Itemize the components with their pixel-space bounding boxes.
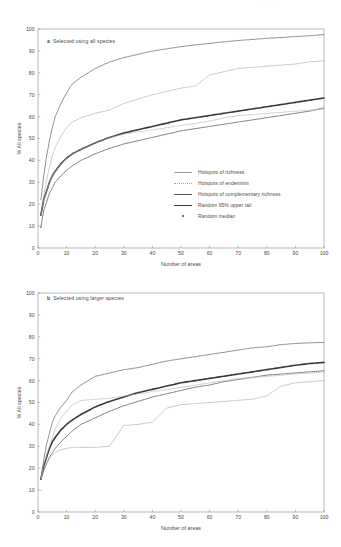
svg-text:0: 0 <box>37 514 40 520</box>
legend: Hotspots of richness Hotspots of endemis… <box>172 166 322 221</box>
svg-text:0: 0 <box>32 245 35 251</box>
legend-label: Random median <box>194 213 235 219</box>
svg-text:70: 70 <box>29 92 35 98</box>
line-sample-thick-dark-icon <box>172 201 194 209</box>
svg-text:60: 60 <box>207 250 213 256</box>
svg-text:80: 80 <box>264 250 270 256</box>
svg-text:Number of areas: Number of areas <box>161 525 201 531</box>
svg-text:10: 10 <box>64 250 70 256</box>
panel-b-letter: b <box>47 295 50 301</box>
svg-text:0: 0 <box>32 509 35 515</box>
legend-item-hotspots-endemism: Hotspots of endemism <box>172 177 322 188</box>
svg-text:40: 40 <box>29 157 35 163</box>
svg-text:30: 30 <box>121 250 127 256</box>
svg-text:90: 90 <box>29 48 35 54</box>
svg-text:Number of areas: Number of areas <box>161 261 201 267</box>
svg-text:60: 60 <box>207 514 213 520</box>
svg-text:90: 90 <box>29 312 35 318</box>
legend-label: Hotspots of complementary richness <box>194 191 281 197</box>
svg-text:50: 50 <box>178 250 184 256</box>
legend-label: Hotspots of richness <box>194 169 244 175</box>
legend-item-hotspots-richness: Hotspots of richness <box>172 166 322 177</box>
panel-a-caption: aSelected using all species <box>47 38 115 44</box>
svg-text:20: 20 <box>29 465 35 471</box>
legend-label: Random 95% upper tail <box>194 202 251 208</box>
svg-text:80: 80 <box>29 334 35 340</box>
svg-text:10: 10 <box>64 514 70 520</box>
svg-text:60: 60 <box>29 378 35 384</box>
svg-text:30: 30 <box>29 443 35 449</box>
chart-panel-a: 0102030405060708090100010203040506070809… <box>0 0 341 283</box>
svg-text:0: 0 <box>37 250 40 256</box>
svg-text:% All species: % All species <box>16 386 22 418</box>
panel-a-letter: a <box>47 38 50 44</box>
svg-text:100: 100 <box>26 290 35 296</box>
svg-text:100: 100 <box>26 26 35 32</box>
svg-text:30: 30 <box>121 514 127 520</box>
svg-text:70: 70 <box>235 514 241 520</box>
figure-container: – – 010203040506070809010001020304050607… <box>0 0 341 547</box>
panel-b-caption: bSelected using larger species <box>47 295 124 301</box>
chart-panel-b: 0102030405060708090100010203040506070809… <box>0 268 341 547</box>
svg-text:40: 40 <box>150 514 156 520</box>
svg-text:100: 100 <box>320 514 329 520</box>
svg-text:10: 10 <box>29 487 35 493</box>
panel-b-caption-text: Selected using larger species <box>53 295 124 301</box>
svg-text:60: 60 <box>29 114 35 120</box>
svg-text:70: 70 <box>235 250 241 256</box>
legend-item-random-median: Random median <box>172 210 322 221</box>
panel-a-caption-text: Selected using all species <box>53 38 115 44</box>
legend-item-random-upper-tail: Random 95% upper tail <box>172 199 322 210</box>
svg-text:70: 70 <box>29 356 35 362</box>
panel-b-plot: 0102030405060708090100010203040506070809… <box>0 268 341 547</box>
svg-text:20: 20 <box>92 250 98 256</box>
svg-text:20: 20 <box>29 201 35 207</box>
svg-text:80: 80 <box>264 514 270 520</box>
svg-text:% All species: % All species <box>16 122 22 154</box>
svg-text:20: 20 <box>92 514 98 520</box>
line-sample-thin-dark-icon <box>172 190 194 198</box>
svg-text:90: 90 <box>293 514 299 520</box>
legend-label: Hotspots of endemism <box>194 180 249 186</box>
legend-item-hotspots-complementary: Hotspots of complementary richness <box>172 188 322 199</box>
svg-text:40: 40 <box>29 421 35 427</box>
svg-text:40: 40 <box>150 250 156 256</box>
marker-sample-dot-icon <box>172 212 194 220</box>
svg-text:10: 10 <box>29 223 35 229</box>
svg-text:90: 90 <box>293 250 299 256</box>
svg-text:50: 50 <box>29 399 35 405</box>
svg-text:80: 80 <box>29 70 35 76</box>
svg-text:50: 50 <box>178 514 184 520</box>
svg-text:30: 30 <box>29 179 35 185</box>
svg-text:100: 100 <box>320 250 329 256</box>
line-sample-thin-light-icon <box>172 168 194 176</box>
line-sample-dotted-light-icon <box>172 179 194 187</box>
svg-text:50: 50 <box>29 135 35 141</box>
